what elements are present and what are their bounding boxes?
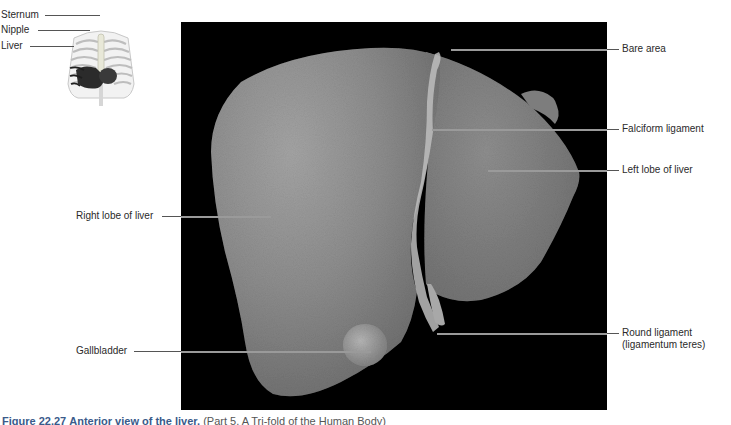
leader-line-bare-area [607,49,619,50]
label-round-ligament: Round ligament [622,327,692,339]
gallbladder [343,324,387,366]
left-lobe-of-liver [424,52,579,301]
label-gallbladder: Gallbladder [76,345,127,357]
leader-line-gallbladder [134,351,181,352]
leader-line-bare-area-photo [451,49,607,51]
leader-line-falciform-photo [432,129,607,131]
label-liver: Liver [1,40,23,52]
figure-source: (Part 5, A Tri-fold of the Human Body) [203,415,386,425]
rib-cage-icon [62,24,140,108]
leader-line-round-ligament [607,333,619,334]
leader-line-sternum [45,15,100,16]
label-right-lobe-of-liver: Right lobe of liver [76,210,153,222]
label-falciform-ligament: Falciform ligament [622,123,704,135]
leader-line-left-lobe [607,170,619,171]
label-nipple: Nipple [1,24,29,36]
leader-line-liver [30,46,74,47]
label-ligamentum-teres: (ligamentum teres) [622,339,705,351]
label-sternum: Sternum [1,9,39,21]
label-bare-area: Bare area [622,43,666,55]
figure-number: Figure 22.27 [2,415,66,425]
thorax-inset-illustration [62,24,140,108]
leader-line-gallbladder-photo [181,351,371,353]
figure-title: Anterior view of the liver. [69,415,200,425]
leader-line-left-lobe-photo [488,170,607,172]
figure-caption: Figure 22.27 Anterior view of the liver.… [2,414,386,425]
right-lobe-of-liver [211,48,440,397]
leader-line-round-ligament-photo [437,333,607,335]
leader-line-right-lobe-photo [181,216,271,218]
leader-line-falciform [607,129,619,130]
leader-line-nipple [38,30,90,31]
leader-line-right-lobe [162,216,181,217]
label-left-lobe-of-liver: Left lobe of liver [622,164,693,176]
